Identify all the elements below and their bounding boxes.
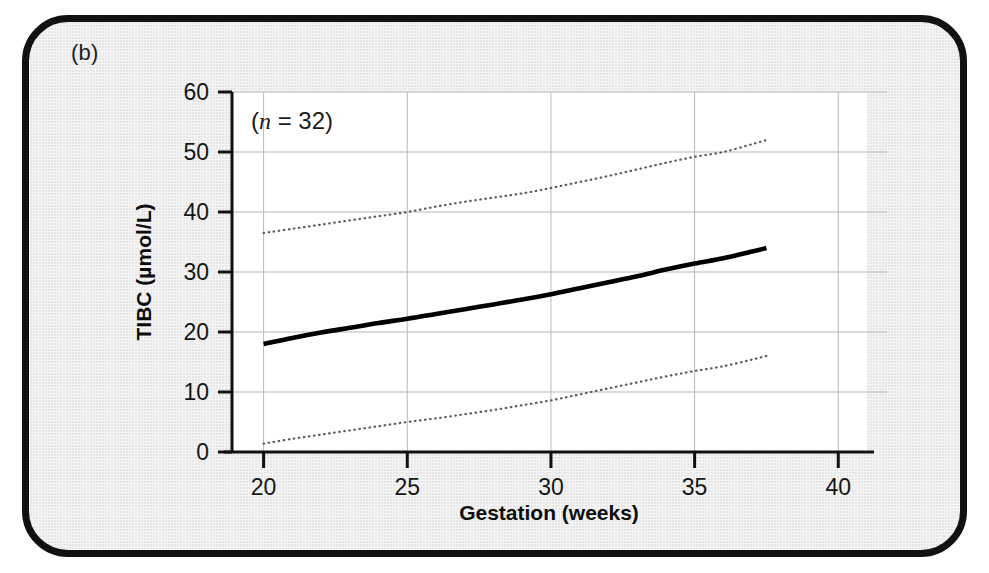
y-axis-tick-label: 40 [183,199,209,225]
y-axis-tick-label: 20 [183,319,209,345]
y-axis-tick-label: 50 [183,139,209,165]
x-axis-title: Gestation (weeks) [459,501,639,524]
y-axis-tick-label: 60 [183,79,209,105]
figure-panel-inner: (b) 0102030405060 2025303540 [29,22,960,550]
y-axis-tick-label: 10 [183,379,209,405]
x-axis-tick-label: 20 [251,474,277,500]
y-axis-tick-label: 0 [196,439,209,465]
x-axis-tick-label: 35 [682,474,708,500]
x-axis-ticks [264,452,839,468]
y-axis-tick-labels: 0102030405060 [183,79,209,465]
y-axis-tick-label: 30 [183,259,209,285]
x-axis-tick-label: 40 [825,474,851,500]
chart-canvas: 0102030405060 2025303540 (n = 32) Gestat… [29,22,960,550]
figure-root: (b) 0102030405060 2025303540 [0,0,989,573]
figure-panel-border: (b) 0102030405060 2025303540 [22,15,967,557]
x-axis-tick-label: 25 [394,474,420,500]
y-axis-title: TIBC (µmol/L) [132,204,155,341]
y-axis-ticks [218,92,232,452]
sample-size-annotation: (n = 32) [251,107,333,134]
x-axis-tick-labels: 2025303540 [251,474,851,500]
x-axis-tick-label: 30 [538,474,564,500]
